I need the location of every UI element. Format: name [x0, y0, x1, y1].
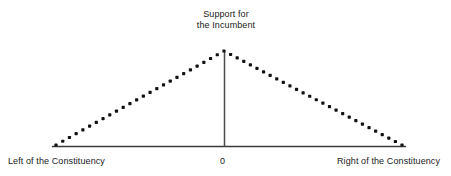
- data-dot: [354, 119, 357, 122]
- data-dot: [189, 68, 192, 71]
- data-dot: [155, 87, 158, 90]
- peak-title-line-1: Support for: [186, 9, 266, 20]
- data-dot: [222, 49, 225, 52]
- data-dot: [209, 57, 212, 60]
- data-dot: [262, 70, 265, 73]
- data-dot: [361, 123, 364, 126]
- data-dot: [348, 116, 351, 119]
- data-dot: [148, 91, 151, 94]
- data-dot: [135, 98, 138, 101]
- data-dot: [61, 140, 64, 143]
- figure-root: Support for the Incumbent Left of the Co…: [0, 0, 451, 176]
- data-dot: [381, 133, 384, 136]
- data-dot: [249, 63, 252, 66]
- data-dot: [182, 72, 185, 75]
- data-dot: [54, 143, 57, 146]
- data-dot: [75, 132, 78, 135]
- data-dot: [334, 109, 337, 112]
- data-dot: [162, 83, 165, 86]
- data-dot: [282, 81, 285, 84]
- dotted-tent-series: [54, 49, 403, 146]
- data-dot: [202, 61, 205, 64]
- data-dot: [367, 126, 370, 129]
- peak-title: Support for the Incumbent: [186, 9, 266, 31]
- data-dot: [115, 110, 118, 113]
- data-dot: [341, 112, 344, 115]
- data-dot: [216, 53, 219, 56]
- data-dot: [302, 91, 305, 94]
- data-dot: [328, 105, 331, 108]
- data-dot: [295, 88, 298, 91]
- data-dot: [68, 136, 71, 139]
- data-dot: [108, 113, 111, 116]
- data-dot: [269, 74, 272, 77]
- peak-title-line-2: the Incumbent: [186, 20, 266, 31]
- data-dot: [81, 128, 84, 131]
- data-dot: [122, 106, 125, 109]
- data-dot: [275, 77, 278, 80]
- data-dot: [288, 84, 291, 87]
- data-dot: [95, 121, 98, 124]
- data-dot: [242, 60, 245, 63]
- axis-label-right: Right of the Constituency: [337, 156, 440, 167]
- data-dot: [142, 95, 145, 98]
- data-dot: [387, 136, 390, 139]
- data-dot: [169, 79, 172, 82]
- data-dot: [128, 102, 131, 105]
- data-dot: [374, 129, 377, 132]
- axis-label-left: Left of the Constituency: [8, 156, 105, 167]
- data-dot: [101, 117, 104, 120]
- data-dot: [88, 125, 91, 128]
- data-dot: [315, 98, 318, 101]
- data-dot: [394, 140, 397, 143]
- data-dot: [175, 76, 178, 79]
- data-dot: [308, 95, 311, 98]
- data-dot: [400, 143, 403, 146]
- axes-group: [52, 51, 406, 147]
- data-dot: [236, 56, 239, 59]
- axis-label-center: 0: [220, 156, 225, 167]
- data-dot: [196, 64, 199, 67]
- data-dot: [255, 67, 258, 70]
- data-dot: [321, 102, 324, 105]
- data-dot: [229, 53, 232, 56]
